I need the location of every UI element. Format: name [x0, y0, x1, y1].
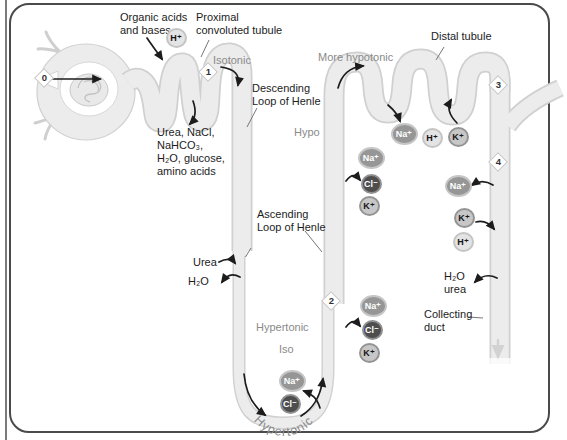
ion-text: H⁺: [457, 237, 469, 247]
label-proximal-tubule: Proximal convoluted tubule: [196, 11, 282, 37]
marker-number: 0: [38, 72, 50, 83]
ion-hydrogen-proximal: H⁺: [166, 28, 187, 48]
ion-text: Cl⁻: [365, 325, 379, 335]
label-water-urea: H₂O urea: [444, 270, 466, 296]
ion-text: Cl⁻: [364, 179, 378, 189]
label-collecting-duct: Collecting duct: [424, 308, 472, 334]
ion-text: Cl⁻: [283, 399, 297, 409]
ion-sodium-distal: Na⁺: [391, 123, 418, 145]
label-ascending-loop: Ascending Loop of Henle: [257, 208, 326, 234]
ion-text: Na⁺: [396, 129, 413, 139]
ion-hydrogen-duct: H⁺: [453, 232, 474, 252]
ion-hydrogen-distal: H⁺: [422, 128, 443, 148]
arrow-nacl-out-thick-limb: [346, 176, 360, 181]
ion-sodium-duct: Na⁺: [445, 175, 472, 197]
label-iso: Iso: [279, 343, 294, 356]
duct-fade: [487, 358, 513, 367]
ion-text: K⁺: [452, 132, 464, 142]
pointer-proximal: [201, 40, 209, 57]
ion-text: H⁺: [170, 33, 182, 43]
ion-text: H⁺: [426, 133, 438, 143]
ion-potassium-limb-2: K⁺: [359, 343, 380, 363]
label-water: H₂O: [188, 275, 209, 288]
label-descending-loop: Descending Loop of Henle: [252, 82, 321, 108]
ion-potassium-thick-limb: K⁺: [359, 196, 380, 216]
ion-potassium-distal: K⁺: [448, 127, 469, 147]
label-hypertonic: Hypertonic: [256, 321, 309, 334]
pointer-ascending: [305, 231, 322, 252]
ion-text: K⁺: [363, 348, 375, 358]
ion-sodium-bend: Na⁺: [279, 370, 306, 392]
ascending-distal-outline: [334, 59, 500, 304]
label-distal-tubule: Distal tubule: [431, 30, 492, 43]
nephron-diagram: Hypertonic Organic acids and bases, Prox…: [0, 0, 567, 440]
label-more-hypotonic: More hypotonic: [318, 51, 393, 64]
label-isotonic: Isotonic: [213, 54, 251, 67]
ion-chloride-bend: Cl⁻: [280, 394, 301, 414]
ion-text: K⁺: [363, 201, 375, 211]
ion-sodium-limb-2: Na⁺: [360, 295, 387, 317]
ion-text: K⁺: [458, 213, 470, 223]
ion-potassium-duct: K⁺: [454, 208, 475, 228]
ion-sodium-thick-limb: Na⁺: [358, 147, 385, 169]
ion-text: Na⁺: [450, 181, 467, 191]
label-urea: Urea: [193, 256, 217, 269]
ion-text: Na⁺: [363, 153, 380, 163]
label-hypo: Hypo: [294, 126, 320, 139]
arrow-organic-acid-secretion: [147, 38, 162, 59]
label-filtrate-substances: Urea, NaCl, NaHCO₃, H₂O, glucose, amino …: [157, 126, 225, 178]
marker-number: 1: [202, 66, 214, 77]
branch-tubule-fill: [508, 88, 560, 126]
marker-number: 4: [492, 156, 504, 167]
arrow-nacl-out-limb-2: [346, 322, 360, 327]
ion-chloride-thick-limb: Cl⁻: [361, 174, 382, 194]
marker-number: 3: [492, 79, 504, 90]
ion-text: Na⁺: [284, 376, 301, 386]
marker-number: 2: [325, 295, 337, 306]
ion-text: Na⁺: [365, 301, 382, 311]
ion-chloride-limb-2: Cl⁻: [362, 320, 383, 340]
